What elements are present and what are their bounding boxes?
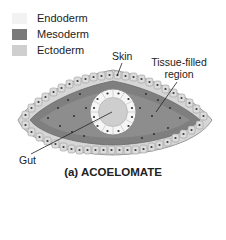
skin-label: Skin — [112, 50, 132, 62]
tissue-label-line1: Tissue-filled — [146, 56, 212, 68]
tissue-label-line2: region — [146, 68, 212, 80]
diagram-caption: (a) ACOELOMATE — [0, 166, 226, 178]
tissue-filled-region-label: Tissue-filled region — [146, 56, 212, 80]
gut-label: Gut — [19, 154, 36, 166]
gut-lumen — [99, 98, 128, 127]
